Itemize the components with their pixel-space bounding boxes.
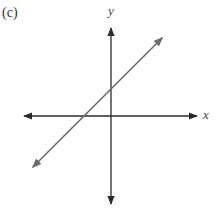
coordinate-plane	[0, 0, 221, 216]
plotted-line	[33, 38, 163, 168]
